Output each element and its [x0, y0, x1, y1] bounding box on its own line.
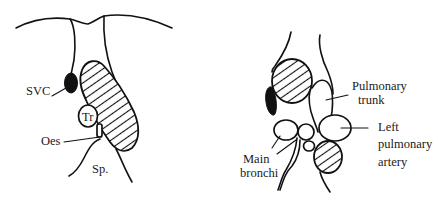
left-upper-outline	[16, 15, 172, 28]
right-upper-right-edge	[319, 35, 333, 94]
spine-right-edge	[116, 149, 132, 182]
label-left-pulmonary-artery-3: artery	[378, 155, 408, 169]
label-pulmonary-trunk-2: trunk	[358, 93, 385, 107]
left-panel: SVC Tr Oes Sp.	[16, 15, 172, 182]
right-panel: Pulmonary trunk Left pulmonary artery Ma…	[240, 32, 433, 192]
label-tr: Tr	[82, 110, 94, 124]
anatomy-diagram: SVC Tr Oes Sp. Pulmonary trunk	[0, 0, 441, 204]
label-main-bronchi-2: bronchi	[240, 166, 279, 180]
right-lower-right-edge	[320, 172, 330, 192]
svc-vessel	[65, 73, 78, 93]
pulmonary-trunk-leader	[326, 95, 348, 100]
label-main-bronchi-1: Main	[243, 152, 270, 166]
oesophagus-right	[304, 141, 315, 151]
svc-leader-line	[52, 88, 66, 96]
label-left-pulmonary-artery-1: Left	[378, 120, 399, 134]
label-sp: Sp.	[92, 162, 108, 176]
main-bronchi-leader-1	[272, 136, 280, 148]
main-bronchus-left	[298, 124, 314, 140]
ascending-aorta-hatched	[272, 59, 312, 103]
label-pulmonary-trunk-1: Pulmonary	[352, 79, 408, 93]
label-left-pulmonary-artery-2: pulmonary	[378, 137, 433, 151]
diagram-canvas: SVC Tr Oes Sp. Pulmonary trunk	[0, 0, 441, 204]
label-oes: Oes	[41, 134, 61, 148]
right-lower-left-edge	[280, 140, 300, 190]
main-bronchi-leader-2	[277, 140, 296, 154]
oesophagus	[97, 124, 102, 137]
descending-aorta-hatched	[314, 141, 342, 173]
main-bronchus-right	[274, 120, 298, 140]
label-svc: SVC	[26, 84, 50, 98]
